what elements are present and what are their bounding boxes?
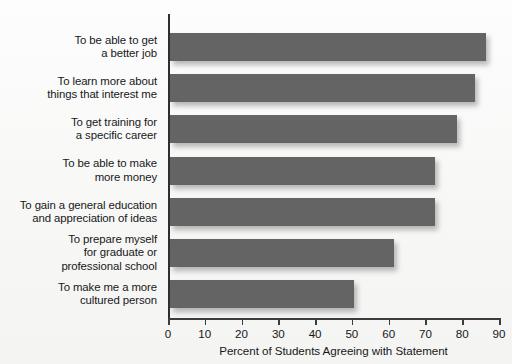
x-axis-line	[168, 318, 499, 320]
category-label: To gain a general education and apprecia…	[0, 199, 157, 225]
x-tick-mark	[352, 318, 354, 325]
category-label: To be able to make more money	[0, 157, 157, 183]
x-tick-mark	[389, 318, 391, 325]
x-tick-mark	[462, 318, 464, 325]
bar	[170, 74, 475, 102]
x-tick-label: 80	[447, 327, 477, 340]
x-tick-label: 60	[374, 327, 404, 340]
x-tick-label: 70	[410, 327, 440, 340]
x-axis-title: Percent of Students Agreeing with Statem…	[168, 344, 499, 357]
bar	[170, 280, 354, 308]
x-tick-mark	[315, 318, 317, 325]
bar	[170, 115, 457, 143]
bar	[170, 198, 435, 226]
x-tick-label: 30	[263, 327, 293, 340]
x-tick-mark	[242, 318, 244, 325]
x-tick-mark	[278, 318, 280, 325]
x-tick-label: 90	[484, 327, 512, 340]
bar	[170, 157, 435, 185]
category-label: To prepare myself for graduate or profes…	[0, 233, 157, 273]
category-label: To be able to get a better job	[0, 34, 157, 60]
x-tick-label: 20	[227, 327, 257, 340]
x-tick-label: 10	[190, 327, 220, 340]
bar-chart: To be able to get a better jobTo learn m…	[0, 0, 512, 364]
bar	[170, 33, 486, 61]
x-tick-mark	[425, 318, 427, 325]
x-tick-mark	[168, 318, 170, 325]
x-tick-mark	[205, 318, 207, 325]
x-tick-label: 50	[337, 327, 367, 340]
x-tick-label: 0	[153, 327, 183, 340]
x-tick-mark	[499, 318, 501, 325]
category-label: To learn more about things that interest…	[0, 75, 157, 101]
x-axis: Percent of Students Agreeing with Statem…	[168, 318, 504, 364]
plot-area	[168, 14, 504, 318]
x-tick-label: 40	[300, 327, 330, 340]
category-label: To get training for a specific career	[0, 116, 157, 142]
category-label: To make me a more cultured person	[0, 281, 157, 307]
category-axis-labels: To be able to get a better jobTo learn m…	[0, 0, 163, 318]
bar	[170, 239, 394, 267]
